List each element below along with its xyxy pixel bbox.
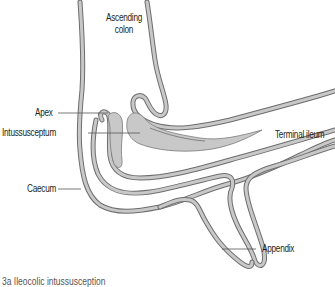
label-apex: Apex bbox=[35, 107, 53, 118]
label-ascending-colon-line1: Ascending bbox=[104, 12, 143, 24]
label-caecum: Caecum bbox=[27, 183, 56, 194]
ascending-colon-right-wall bbox=[133, 2, 335, 128]
label-appendix: Appendix bbox=[262, 243, 294, 254]
label-ascending-colon: Ascending colon bbox=[104, 12, 143, 36]
appendix-wall bbox=[160, 199, 252, 266]
label-ascending-colon-line2: colon bbox=[104, 24, 143, 36]
label-terminal-ileum: Terminal ileum bbox=[275, 129, 324, 140]
label-intussusceptum: Intussusceptum bbox=[2, 127, 56, 138]
figure-caption: 3a Ileocolic intussusception bbox=[2, 276, 105, 287]
